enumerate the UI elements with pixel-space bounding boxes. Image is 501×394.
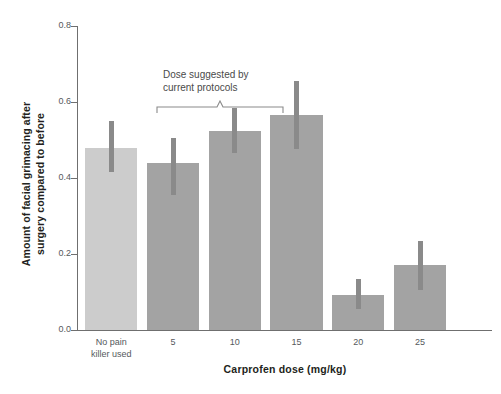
x-tick-label: 10	[204, 336, 266, 348]
x-tick-label-line: No pain	[80, 336, 142, 348]
x-tick-label-line: 10	[204, 336, 266, 348]
y-tick-label: 0.0	[37, 324, 71, 334]
x-tick-label-line: 20	[327, 336, 389, 348]
bar-chart: Amount of facial grimacing after surgery…	[0, 0, 501, 394]
y-tick-label: 0.6	[37, 96, 71, 106]
x-tick-label: 20	[327, 336, 389, 348]
y-tick-label: 0.4	[37, 172, 71, 182]
annotation-dose-suggested: Dose suggested by current protocols	[163, 68, 249, 94]
y-tick-label: 0.8	[37, 20, 71, 30]
annotation-bracket-icon	[155, 100, 285, 114]
bar-no-pain-killer-used	[85, 148, 137, 330]
annotation-line2: current protocols	[163, 81, 249, 94]
x-tick-label-line: 15	[266, 336, 328, 348]
error-bar	[232, 108, 237, 154]
x-axis-line	[77, 330, 492, 331]
error-bar	[109, 121, 114, 172]
x-tick-label-line: 5	[142, 336, 204, 348]
error-bar	[171, 138, 176, 195]
y-axis-title-line1: Amount of facial grimacing after	[19, 69, 33, 299]
bar-10	[209, 131, 261, 331]
x-tick-label: 15	[266, 336, 328, 348]
x-tick-label: 25	[389, 336, 451, 348]
plot-area	[77, 26, 492, 330]
y-tick-mark	[71, 330, 77, 331]
error-bar	[294, 81, 299, 149]
x-tick-label-line: 25	[389, 336, 451, 348]
x-tick-label: No painkiller used	[80, 336, 142, 360]
x-tick-label: 5	[142, 336, 204, 348]
x-tick-label-line: killer used	[80, 348, 142, 360]
x-axis-title: Carprofen dose (mg/kg)	[75, 363, 495, 375]
annotation-line1: Dose suggested by	[163, 68, 249, 81]
error-bar	[418, 241, 423, 290]
y-tick-label: 0.2	[37, 248, 71, 258]
error-bar	[356, 279, 361, 309]
